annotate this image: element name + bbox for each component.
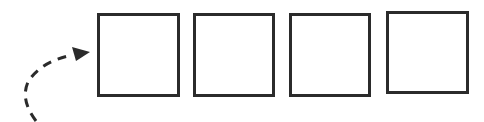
box-1 xyxy=(97,13,180,97)
box-3 xyxy=(289,13,371,97)
box-4 xyxy=(386,11,469,94)
box-2 xyxy=(193,13,275,97)
